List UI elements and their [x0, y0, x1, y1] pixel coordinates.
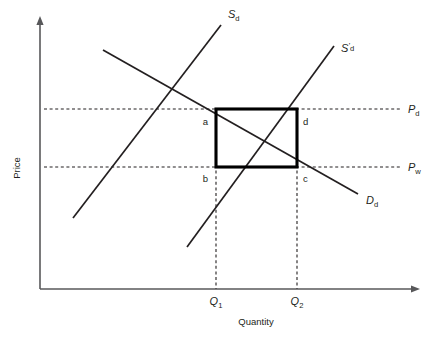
economics-diagram-canvas: SdS'dDd PdPw Q1Q2 adbc Price Quantity: [0, 0, 442, 339]
y-axis-arrowhead: [36, 16, 43, 25]
price-level-labels: PdPw: [408, 103, 421, 176]
corner-a-label: a: [203, 116, 209, 127]
demand-domestic-label: Dd: [366, 194, 378, 209]
price-world-label: Pw: [408, 161, 421, 176]
supply-domestic-label: Sd: [228, 8, 240, 23]
corner-b-label: b: [203, 173, 208, 184]
x-axis-arrowhead: [411, 285, 420, 292]
quantity-2-label: Q2: [291, 295, 304, 310]
x-axis-title: Quantity: [238, 316, 274, 327]
supply-demand-chart: SdS'dDd PdPw Q1Q2 adbc Price Quantity: [0, 0, 442, 339]
quantity-level-labels: Q1Q2: [210, 295, 304, 310]
quantity-1-label: Q1: [210, 295, 223, 310]
demand-domestic-line: [103, 50, 358, 194]
supply-domestic-line: [73, 25, 221, 218]
price-domestic-label: Pd: [408, 103, 420, 118]
supply-domestic-shifted-line: [187, 46, 334, 247]
corner-d-label: d: [303, 116, 308, 127]
corner-c-label: c: [303, 173, 308, 184]
welfare-rectangle: [216, 109, 297, 167]
y-axis-title: Price: [11, 157, 22, 179]
supply-domestic-shifted-label: S'd: [341, 41, 354, 54]
rectangle-corner-labels: adbc: [203, 116, 309, 184]
